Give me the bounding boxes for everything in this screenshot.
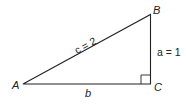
vertex-label-b: B [153,4,160,16]
triangle-diagram: A B C c = 2 a = 1 b [0,0,186,104]
right-angle-marker [141,75,151,84]
vertex-label-c: C [154,81,162,93]
side-a-label: a = 1 [157,46,181,58]
side-b-label: b [85,87,91,99]
vertex-label-a: A [11,79,19,91]
hypotenuse-label: c = 2 [72,34,98,56]
